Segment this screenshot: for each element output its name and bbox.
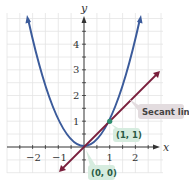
x-tick-label: −1 (52, 152, 67, 163)
parabola-secant-chart: −2 −1 1 2 4 3 2 1 x y Secant line (1, 1)… (0, 0, 189, 185)
point-one-marker (107, 119, 112, 124)
y-tick-label: 2 (73, 90, 79, 101)
origin-label: (0, 0) (91, 168, 117, 178)
parabola-left-arrow-icon (26, 15, 32, 24)
x-tick-label: 1 (107, 152, 113, 163)
secant-label: Secant line (142, 107, 189, 117)
y-axis-label: y (80, 2, 88, 15)
x-tick-label: −2 (26, 152, 41, 163)
y-tick-label: 3 (73, 64, 79, 75)
point-one-callout: (1, 1) (111, 124, 142, 142)
x-tick-label: 2 (132, 152, 138, 163)
point-one-label: (1, 1) (116, 130, 142, 140)
secant-callout: Secant line (129, 99, 189, 119)
y-tick-label: 4 (73, 39, 79, 50)
y-tick-label: 1 (73, 116, 79, 127)
parabola-right-arrow-icon (137, 15, 143, 24)
x-axis-label: x (163, 141, 170, 154)
x-axis-arrow-icon (153, 145, 160, 150)
grid (7, 13, 163, 173)
y-axis-arrow-icon (82, 16, 87, 23)
